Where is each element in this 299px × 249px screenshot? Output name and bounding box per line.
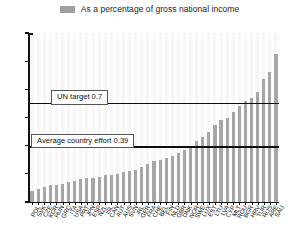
y-axis-tick [25,173,29,174]
bar [274,54,277,202]
bar [177,153,180,202]
chart-legend: As a percentage of gross national income [0,4,299,14]
bar [183,150,186,202]
bar [122,172,125,202]
bar [244,101,247,202]
bar [226,118,229,203]
bar [55,185,58,202]
bar [85,178,88,202]
bar [67,182,70,202]
column-shade [67,33,70,202]
average-effort-annotation: Average country effort 0.39 [31,134,134,148]
bar [91,178,94,202]
bar [98,177,101,202]
bar [140,167,143,202]
column-shade [37,33,40,202]
bar [152,161,155,202]
bar [238,106,241,202]
column-shade [61,33,64,202]
y-axis-tick [25,61,29,62]
column-shade [73,33,76,202]
un-target-annotation: UN target 0.7 [51,90,108,104]
column-shade [49,33,52,202]
bar [146,164,149,202]
bar [262,79,265,202]
chart-container: As a percentage of gross national income… [0,0,299,249]
column-shade [92,33,95,202]
bar [159,160,162,202]
bar [79,179,82,202]
bar [195,141,198,202]
x-axis-labels: POLSVKCZEKORHUNGRCITAUSAPRTJPNESPNZLISLC… [29,204,279,249]
bar [30,191,33,202]
bar [213,125,216,202]
column-shade [85,33,88,202]
plot-area: Average country effort 0.39 UN target 0.… [29,33,279,202]
bar [171,156,174,202]
bar [219,120,222,202]
bar [73,181,76,202]
bar [61,184,64,202]
bar [116,174,119,202]
bar [110,175,113,202]
y-axis-tick [25,117,29,118]
bar [207,132,210,202]
column-shade [43,33,46,202]
series-color-swatch [60,6,75,13]
bar [250,98,253,202]
y-axis-tick [25,89,29,90]
bar [43,187,46,202]
legend-label: As a percentage of gross national income [81,4,239,14]
bar [232,112,235,202]
bar [49,185,52,202]
bar [268,72,271,202]
bar [189,146,192,202]
bar [37,189,40,202]
bar [134,170,137,202]
y-axis-tick [25,32,29,33]
column-shade [79,33,82,202]
column-shade [55,33,58,202]
y-axis-tick [25,201,29,202]
column-shade [31,33,34,202]
bar [104,175,107,202]
bar [128,171,131,202]
bar [165,158,168,202]
